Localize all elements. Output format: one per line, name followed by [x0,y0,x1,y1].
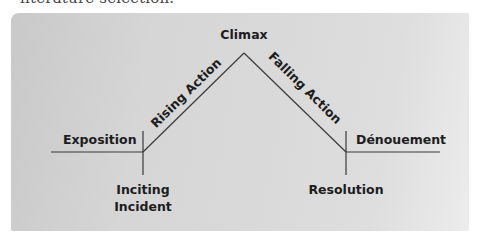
rising-action-label: Rising Action [147,55,224,131]
climax-label: Climax [220,27,267,42]
rising-action-line [143,53,244,152]
inciting-incident-label-line2: Incident [114,199,172,214]
resolution-label: Resolution [308,182,383,197]
denouement-label: Dénouement [356,132,446,147]
inciting-incident-label-line1: Inciting [116,182,169,197]
exposition-label: Exposition [63,132,137,147]
falling-action-label: Falling Action [266,49,345,127]
plot-structure-diagram: Climax Rising Action Falling Action Expo… [0,0,483,240]
